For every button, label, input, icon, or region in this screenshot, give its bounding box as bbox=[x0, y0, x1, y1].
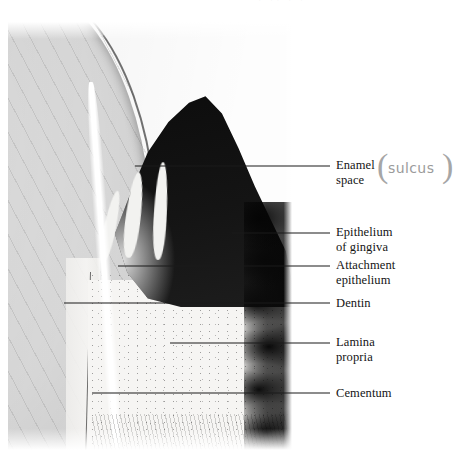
label-dentin: Dentin bbox=[336, 296, 371, 311]
label-enamel-space: Enamel space bbox=[336, 158, 375, 187]
histology-figure: · ·· · · Enamel space Epithelium of ging… bbox=[0, 0, 459, 462]
handwritten-open-paren: ( bbox=[377, 149, 388, 183]
label-cementum: Cementum bbox=[336, 386, 392, 401]
top-clipped-text-artifact: · ·· · · bbox=[258, 0, 454, 2]
label-epithelium-of-gingiva: Epithelium of gingiva bbox=[336, 225, 393, 254]
handwritten-close-paren: ) bbox=[442, 149, 453, 183]
micrograph-image bbox=[8, 22, 292, 450]
label-lamina-propria: Lamina propria bbox=[336, 335, 375, 364]
label-attachment-epithelium: Attachment epithelium bbox=[336, 258, 395, 287]
section-edge-vignette bbox=[8, 22, 292, 450]
handwritten-sulcus-note: sulcus bbox=[388, 160, 434, 176]
